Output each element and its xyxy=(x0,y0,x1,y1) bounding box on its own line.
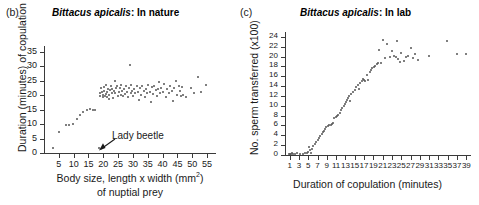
data-point xyxy=(185,96,187,98)
y-axis-tick xyxy=(281,116,285,117)
data-point xyxy=(407,55,409,57)
data-point xyxy=(346,99,348,101)
data-point xyxy=(403,60,405,62)
data-point xyxy=(179,90,181,92)
data-point xyxy=(105,84,107,86)
x-axis-tick-label: 55 xyxy=(197,159,217,169)
panel-c-title-rest: : In lab xyxy=(379,7,411,18)
data-point xyxy=(160,87,162,89)
data-point xyxy=(193,92,195,94)
y-axis-tick xyxy=(281,66,285,67)
x-axis-tick xyxy=(448,156,449,160)
panel-b-y-axis-title: Duration (minutes) of copulation xyxy=(16,3,28,152)
y-axis-tick xyxy=(40,95,44,96)
y-axis-tick xyxy=(281,57,285,58)
data-point xyxy=(101,91,103,93)
y-axis-tick xyxy=(281,96,285,97)
data-point xyxy=(168,92,170,94)
data-point xyxy=(79,114,81,116)
data-point xyxy=(150,101,152,103)
data-point xyxy=(68,124,70,126)
data-point xyxy=(412,57,414,59)
x-axis-tick xyxy=(290,156,291,160)
y-axis-tick-label: 22 xyxy=(258,41,278,50)
data-point xyxy=(382,39,384,41)
data-point xyxy=(124,93,126,95)
y-axis-tick xyxy=(281,86,285,87)
x-axis-tick xyxy=(192,154,193,158)
data-point xyxy=(141,85,143,87)
data-point xyxy=(103,86,105,88)
x-axis-tick xyxy=(299,156,300,160)
y-axis-tick-label: 6 xyxy=(258,119,278,128)
x-axis-tick xyxy=(336,156,337,160)
data-point xyxy=(137,91,139,93)
data-point xyxy=(386,43,388,45)
data-point xyxy=(367,79,369,81)
y-axis-tick-label: 10 xyxy=(258,100,278,109)
data-point xyxy=(178,85,180,87)
y-axis-tick-label: 20 xyxy=(258,51,278,60)
x-axis-tick xyxy=(364,156,365,160)
data-point xyxy=(144,96,146,98)
data-point xyxy=(138,99,140,101)
y-axis-tick xyxy=(40,139,44,140)
data-point xyxy=(112,97,114,99)
y-axis-tick-label: 18 xyxy=(258,60,278,69)
data-point xyxy=(181,86,183,88)
data-point xyxy=(76,118,78,120)
x-axis-tick xyxy=(401,156,402,160)
y-axis-tick-label: 2 xyxy=(258,139,278,148)
data-point xyxy=(190,87,192,89)
data-point xyxy=(169,85,171,87)
data-point xyxy=(399,61,401,63)
y-axis-tick xyxy=(40,153,44,154)
data-point xyxy=(200,91,202,93)
data-point xyxy=(205,84,207,86)
y-axis-tick xyxy=(40,66,44,67)
data-point xyxy=(414,53,416,55)
data-point xyxy=(119,87,121,89)
data-point xyxy=(350,93,352,95)
data-point xyxy=(366,74,368,76)
data-point xyxy=(123,88,125,90)
data-point xyxy=(339,112,341,114)
data-point xyxy=(134,92,136,94)
x-axis-tick xyxy=(457,156,458,160)
data-point xyxy=(143,90,145,92)
data-point xyxy=(166,88,168,90)
data-point xyxy=(384,57,386,59)
data-point xyxy=(343,105,345,107)
data-point xyxy=(173,87,175,89)
data-point xyxy=(129,64,131,66)
data-point xyxy=(349,100,351,102)
data-point xyxy=(149,91,151,93)
y-axis-tick-label: 4 xyxy=(258,129,278,138)
data-point xyxy=(94,109,96,111)
data-point xyxy=(315,141,317,143)
x-axis-tick xyxy=(429,156,430,160)
data-point xyxy=(157,88,159,90)
data-point xyxy=(115,87,117,89)
data-point xyxy=(417,59,419,61)
data-point xyxy=(122,95,124,97)
lady-beetle-annotation-label: Lady beetle xyxy=(112,130,164,141)
figure-container: (b) Bittacus apicalis: In nature 0510152… xyxy=(0,0,479,205)
y-axis-tick-label: 12 xyxy=(258,90,278,99)
y-axis-tick xyxy=(281,155,285,156)
data-point xyxy=(65,124,67,126)
data-point xyxy=(323,130,325,132)
data-point xyxy=(389,56,391,58)
y-axis-tick xyxy=(281,145,285,146)
data-point xyxy=(348,95,350,97)
data-point xyxy=(319,135,321,137)
data-point xyxy=(103,90,105,92)
data-point xyxy=(465,53,467,55)
x-axis-tick xyxy=(59,154,60,158)
data-point xyxy=(347,97,349,99)
data-point xyxy=(131,90,133,92)
data-point xyxy=(139,87,141,89)
x-axis-tick xyxy=(177,154,178,158)
data-point xyxy=(105,93,107,95)
x-axis-tick xyxy=(88,154,89,158)
